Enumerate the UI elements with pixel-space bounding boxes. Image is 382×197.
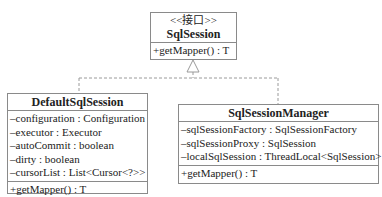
interface-method: +getMapper() : T: [153, 44, 234, 58]
interface-sqlsession: <<接口>> SqlSession +getMapper() : T: [150, 12, 237, 60]
attribute: –sqlSessionProxy : SqlSession: [181, 137, 376, 151]
class-name: DefaultSqlSession: [10, 95, 145, 109]
interface-stereotype: <<接口>>: [153, 14, 234, 27]
class-defaultsqlsession: DefaultSqlSession –configuration : Confi…: [7, 93, 148, 194]
method: +getMapper() : T: [10, 183, 145, 197]
attribute: –dirty : boolean: [10, 153, 145, 167]
attribute: –localSqlSession : ThreadLocal<SqlSessio…: [181, 150, 376, 164]
attribute: –cursorList : List<Cursor<?>>: [10, 166, 145, 180]
interface-name: SqlSession: [153, 27, 234, 41]
attribute: –executor : Executor: [10, 126, 145, 140]
class-name: SqlSessionManager: [181, 106, 376, 120]
realization-arrowhead: [187, 60, 199, 72]
attribute: –configuration : Configuration: [10, 112, 145, 126]
attribute: –autoCommit : boolean: [10, 139, 145, 153]
class-sqlsessionmanager: SqlSessionManager –sqlSessionFactory : S…: [178, 104, 379, 184]
attribute: –sqlSessionFactory : SqlSessionFactory: [181, 123, 376, 137]
method: +getMapper() : T: [181, 167, 376, 181]
